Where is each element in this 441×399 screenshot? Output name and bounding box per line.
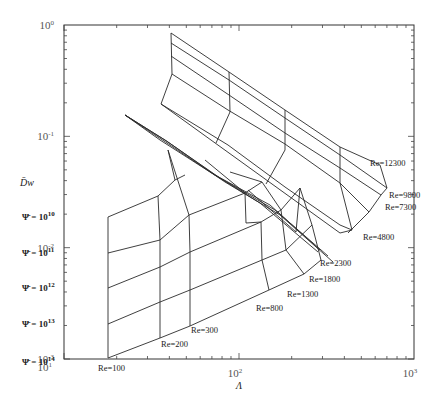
re-label: Re=300: [191, 325, 218, 335]
axis-ticks: [64, 25, 414, 359]
curve-line: [125, 115, 320, 250]
y-axis-title: D̄w: [19, 177, 34, 188]
y-tick-label: 10-1: [37, 130, 54, 142]
curve-line: [168, 150, 190, 326]
curve-line: [266, 110, 285, 184]
re-label: Re=2300: [320, 258, 351, 268]
curve-line: [108, 182, 262, 253]
curve-line: [161, 104, 352, 230]
axis-tick-labels: 10110210310010-110-210-3: [37, 19, 418, 379]
re-labels: Re=100Re=200Re=300Re=800Re=1300Re=1800Re…: [98, 158, 420, 373]
curve-group: [108, 33, 387, 358]
re-label: Re=12300: [370, 158, 406, 168]
x-axis-title: Λ: [235, 380, 242, 391]
y-tick-label: 100: [40, 19, 55, 31]
curve-line: [172, 74, 369, 212]
re-label: Re=800: [256, 303, 283, 313]
re-label: Re=9800: [389, 190, 420, 200]
re-label: Re=200: [161, 339, 188, 349]
re-label: Re=100: [98, 363, 125, 373]
psi-label: Ψ̄ = 1013: [22, 317, 55, 329]
curve-line: [216, 72, 230, 143]
chart: 10110210310010-110-210-3 Ψ̄ = 1010Ψ̄ = 1…: [0, 0, 441, 399]
curve-line: [108, 175, 185, 217]
curve-line: [348, 165, 387, 233]
re-label: Re=7300: [385, 202, 416, 212]
x-tick-label: 103: [403, 367, 418, 379]
x-tick-label: 102: [228, 367, 243, 379]
curve-line: [108, 188, 300, 288]
re-label: Re=1300: [287, 289, 318, 299]
psi-label: Ψ̄ = 1012: [22, 281, 55, 293]
curve-line: [171, 56, 381, 195]
plot-frame: [64, 25, 414, 359]
curve-line: [161, 33, 172, 104]
re-label: Re=4800: [363, 232, 394, 242]
psi-label: Ψ̄ = 1010: [22, 210, 55, 222]
curve-line: [171, 33, 380, 165]
psi-label: Ψ̄ = 1011: [22, 246, 55, 258]
psi-labels: Ψ̄ = 1010Ψ̄ = 1011Ψ̄ = 1012Ψ̄ = 1013Ψ̄ =…: [22, 210, 55, 367]
re-label: Re=1800: [309, 274, 340, 284]
curve-line: [230, 172, 304, 274]
